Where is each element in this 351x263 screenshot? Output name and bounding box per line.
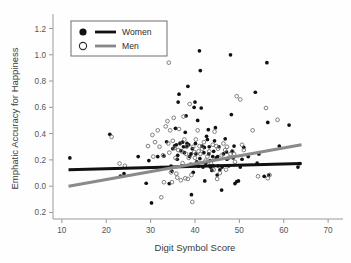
data-point-women bbox=[147, 159, 151, 163]
data-point-women bbox=[183, 130, 187, 134]
y-tick-label: 0.2 bbox=[35, 156, 47, 165]
x-tick-label: 60 bbox=[279, 226, 289, 235]
data-point-women bbox=[254, 90, 258, 94]
data-point-women bbox=[199, 106, 203, 110]
data-point-women bbox=[190, 193, 194, 197]
legend-box bbox=[71, 21, 167, 56]
chart-legend: WomenMen bbox=[71, 21, 167, 56]
data-point-women bbox=[68, 156, 72, 160]
data-point-women bbox=[144, 181, 148, 185]
data-point-women bbox=[237, 179, 241, 183]
data-point-women bbox=[205, 134, 209, 138]
legend-label-men: Men bbox=[122, 41, 139, 51]
data-point-women bbox=[211, 155, 215, 159]
y-tick-label: 0.6 bbox=[35, 103, 47, 112]
y-tick-label: 0.8 bbox=[35, 77, 47, 86]
data-point-women bbox=[212, 149, 216, 153]
data-point-women bbox=[192, 105, 196, 109]
x-tick-label: 40 bbox=[190, 226, 200, 235]
data-point-women bbox=[198, 157, 202, 161]
data-point-women bbox=[207, 145, 211, 149]
data-point-women bbox=[150, 201, 154, 205]
data-point-women bbox=[136, 155, 140, 159]
data-point-women bbox=[265, 61, 269, 65]
data-point-women bbox=[206, 128, 210, 132]
data-point-women bbox=[223, 137, 227, 141]
x-tick-label: 50 bbox=[235, 226, 245, 235]
legend-label-women: Women bbox=[122, 27, 152, 37]
y-axis-title: Emphatic Accuracy for Happiness bbox=[9, 47, 20, 189]
data-point-women bbox=[203, 179, 207, 183]
data-point-women bbox=[214, 126, 218, 130]
data-point-women bbox=[229, 53, 233, 57]
y-tick-label: 0.0 bbox=[35, 182, 47, 191]
legend-marker-filled-circle-icon bbox=[79, 28, 86, 35]
data-point-women bbox=[156, 155, 160, 159]
data-point-women bbox=[213, 139, 217, 143]
data-point-women bbox=[240, 157, 244, 161]
legend-marker-open-circle-icon bbox=[79, 42, 86, 49]
chart-figure: 102030405060700.20.00.20.40.60.81.01.2 D… bbox=[0, 0, 351, 263]
x-tick-label: 20 bbox=[102, 226, 112, 235]
data-point-women bbox=[287, 123, 291, 127]
data-point-women bbox=[174, 127, 178, 131]
y-tick-label: 0.4 bbox=[35, 130, 47, 139]
y-tick-label: 1.2 bbox=[35, 25, 47, 34]
data-point-women bbox=[220, 188, 224, 192]
x-tick-label: 70 bbox=[324, 226, 334, 235]
data-point-women bbox=[177, 92, 181, 96]
data-point-women bbox=[198, 49, 202, 53]
data-point-women bbox=[296, 165, 300, 169]
data-point-women bbox=[198, 69, 202, 73]
data-point-women bbox=[230, 113, 234, 117]
x-tick-label: 30 bbox=[146, 226, 156, 235]
data-point-women bbox=[196, 119, 200, 123]
data-point-women bbox=[176, 100, 180, 104]
y-tick-label: 1.0 bbox=[35, 51, 47, 60]
x-tick-label: 10 bbox=[57, 226, 67, 235]
data-point-women bbox=[193, 100, 197, 104]
data-point-women bbox=[206, 138, 210, 142]
x-axis-title: Digit Symbol Score bbox=[155, 242, 236, 253]
data-point-women bbox=[232, 144, 236, 148]
y-tick-label: 0.2 bbox=[35, 208, 47, 217]
data-point-women bbox=[262, 174, 266, 178]
data-point-women bbox=[266, 121, 270, 125]
scatter-plot: 102030405060700.20.00.20.40.60.81.01.2 D… bbox=[0, 0, 351, 263]
data-point-women bbox=[216, 155, 220, 159]
data-point-women bbox=[186, 84, 190, 88]
